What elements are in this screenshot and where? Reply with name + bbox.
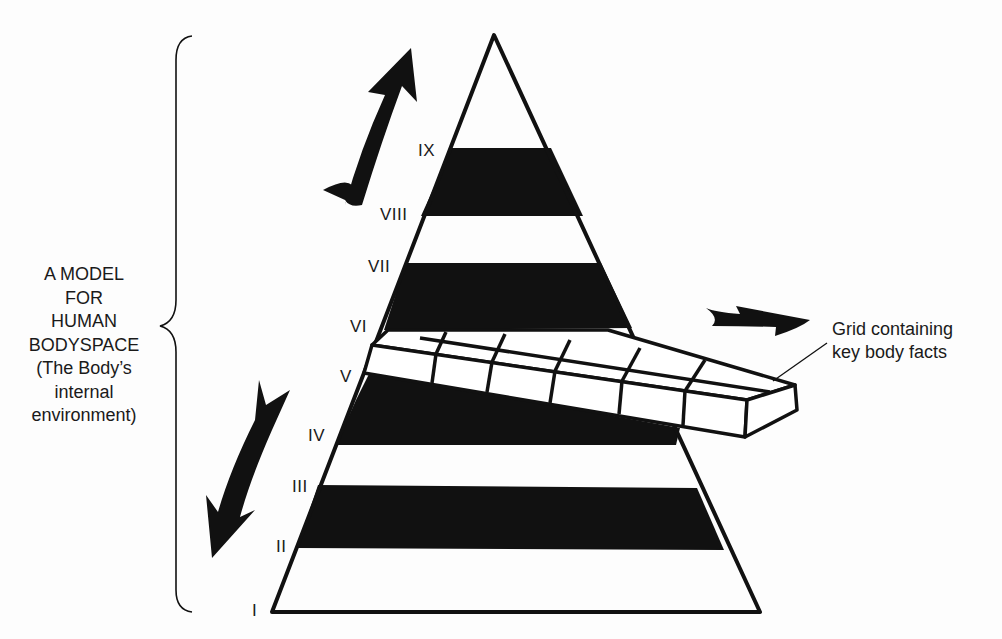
- level-label-viii: VIII: [380, 206, 408, 223]
- arrow-right-icon: [706, 306, 810, 336]
- level-label-i: I: [252, 602, 257, 619]
- caption-line: HUMAN: [0, 310, 168, 334]
- model-caption: A MODEL FOR HUMAN BODYSPACE (The Body’s …: [0, 263, 168, 428]
- level-label-vi: VI: [350, 318, 367, 335]
- band-vi-vii: [384, 263, 632, 330]
- grid-label-line-1: Grid containing: [832, 318, 953, 341]
- caption-line: FOR: [0, 287, 168, 311]
- band-ii-iii: [297, 485, 724, 550]
- caption-line: environment): [0, 404, 168, 428]
- caption-line: A MODEL: [0, 263, 168, 287]
- curved-arrow-up-icon: [323, 48, 417, 206]
- level-label-ix: IX: [418, 142, 435, 159]
- level-label-ii: II: [276, 538, 286, 555]
- caption-line: internal: [0, 381, 168, 405]
- grid-label: Grid containing key body facts: [832, 318, 953, 364]
- grid-leader-line: [773, 343, 827, 381]
- level-label-iii: III: [292, 478, 308, 495]
- level-label-v: V: [340, 368, 352, 385]
- level-label-vii: VII: [368, 258, 390, 275]
- curved-arrow-down-icon: [206, 380, 290, 558]
- caption-line: BODYSPACE: [0, 334, 168, 358]
- level-label-iv: IV: [308, 427, 325, 444]
- caption-line: (The Body’s: [0, 357, 168, 381]
- grid-label-line-2: key body facts: [832, 341, 953, 364]
